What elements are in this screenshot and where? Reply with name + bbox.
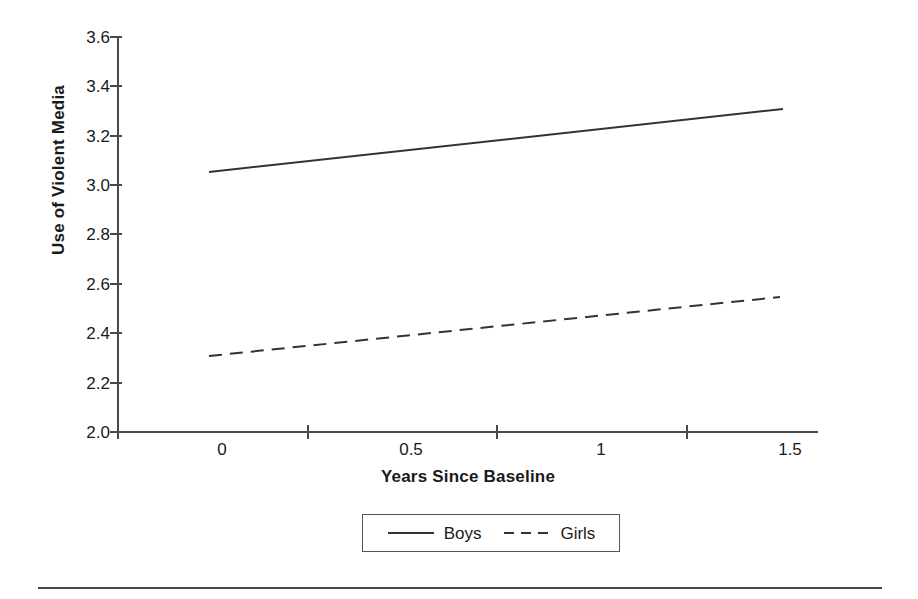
legend-label-boys: Boys — [444, 525, 482, 542]
x-axis-tick-labels: 0 0.5 1 1.5 — [0, 0, 918, 599]
chart-figure: Use of Violent Media 3.6 3.4 3.2 3.0 2.8… — [0, 0, 918, 599]
footer-divider — [38, 587, 882, 589]
legend-line-sample-dashed — [503, 527, 551, 539]
x-tick-label: 1.5 — [750, 441, 830, 458]
chart-legend: Boys Girls — [362, 514, 620, 552]
x-tick-label: 0 — [182, 441, 262, 458]
x-tick-label: 1 — [561, 441, 641, 458]
x-axis-title: Years Since Baseline — [118, 467, 818, 487]
legend-entry-boys: Boys — [387, 525, 482, 542]
legend-line-sample-solid — [387, 527, 435, 539]
x-tick-label: 0.5 — [371, 441, 451, 458]
legend-label-girls: Girls — [560, 525, 595, 542]
legend-entry-girls: Girls — [503, 525, 595, 542]
